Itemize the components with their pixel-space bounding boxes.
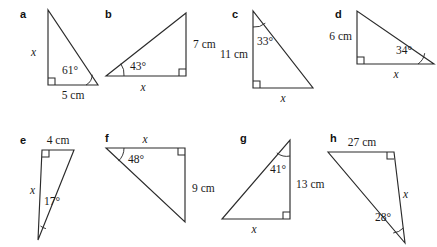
triangle-outline-f <box>106 148 185 222</box>
side-x-e: x <box>29 184 36 196</box>
side-27cm-h: 27 cm <box>348 136 376 148</box>
figure-e: e4 cmx17° <box>20 134 74 240</box>
right-angle-marker-f <box>178 148 185 155</box>
angle-arc-f <box>118 148 124 161</box>
angle-arc-b <box>121 64 124 76</box>
triangle-outline-g <box>222 140 290 219</box>
figure-c: c11 cmx33° <box>220 8 313 104</box>
angle-17-e: 17° <box>44 195 61 207</box>
angle-arc-a <box>86 75 92 85</box>
triangle-outline-c <box>253 11 313 88</box>
item-letter-c: c <box>232 8 238 20</box>
right-angle-marker-c <box>253 81 260 88</box>
figure-f: fx9 cm48° <box>105 132 215 222</box>
side-x-b: x <box>139 81 146 93</box>
triangles-diagram: ax5 cm61°b7 cmx43°c11 cmx33°d6 cmx34°e4 … <box>0 0 437 247</box>
side-x-a: x <box>30 46 37 58</box>
angle-61-a: 61° <box>62 64 79 76</box>
side-x-c: x <box>279 92 286 104</box>
side-6cm-d: 6 cm <box>329 30 352 42</box>
right-angle-marker-a <box>48 78 55 85</box>
right-angle-marker-g <box>283 212 290 219</box>
side-4cm-e: 4 cm <box>47 134 70 146</box>
side-x-h: x <box>402 188 409 200</box>
figure-d: d6 cmx34° <box>329 8 434 80</box>
angle-43-b: 43° <box>130 60 147 72</box>
item-letter-d: d <box>335 8 342 20</box>
angle-28-h: 28° <box>375 211 392 223</box>
figure-g: g13 cmx41° <box>222 132 324 235</box>
figure-a: ax5 cm61° <box>20 8 98 101</box>
item-letter-e: e <box>20 134 26 146</box>
item-letter-a: a <box>20 8 27 20</box>
item-letter-g: g <box>240 132 247 144</box>
side-11cm-c: 11 cm <box>220 48 248 60</box>
side-9cm-f: 9 cm <box>192 182 215 194</box>
right-angle-marker-d <box>357 57 364 64</box>
right-angle-marker-b <box>179 69 186 76</box>
item-letter-b: b <box>105 8 112 20</box>
item-letter-f: f <box>105 132 109 144</box>
angle-34-d: 34° <box>396 44 413 56</box>
right-angle-marker-e <box>42 150 49 157</box>
side-x-g: x <box>250 223 257 235</box>
right-angle-marker-h <box>387 152 394 159</box>
figure-b: b7 cmx43° <box>105 8 216 93</box>
angle-33-c: 33° <box>257 35 274 47</box>
figure-h: h27 cmx28° <box>328 132 409 243</box>
side-13cm-g: 13 cm <box>296 178 324 190</box>
angle-48-f: 48° <box>128 153 145 165</box>
item-letter-h: h <box>330 132 337 144</box>
side-x-f: x <box>141 133 148 145</box>
side-7cm-b: 7 cm <box>193 38 216 50</box>
triangle-outline-d <box>357 11 434 64</box>
worksheet-figure-sheet: ax5 cm61°b7 cmx43°c11 cmx33°d6 cmx34°e4 … <box>0 0 437 247</box>
side-x-d: x <box>392 68 399 80</box>
side-5cm-a: 5 cm <box>62 89 85 101</box>
triangle-outline-h <box>328 152 405 243</box>
angle-41-g: 41° <box>270 163 287 175</box>
